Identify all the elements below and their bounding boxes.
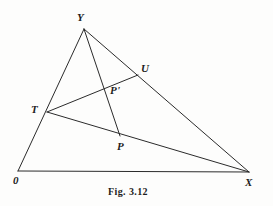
figure-container: 0YXTUPP' Fig. 3.12 [0,0,273,206]
figure-caption: Fig. 3.12 [108,187,148,197]
segment-y-x [84,29,249,172]
point-label-u: U [141,63,149,74]
geometry-diagram [0,0,273,206]
point-label-o: 0 [13,175,19,186]
point-label-y: Y [77,12,84,23]
segment-t-x [47,112,249,172]
point-label-p: P [117,141,124,152]
segment-t-u [47,75,138,112]
point-label-pp: P' [110,85,120,96]
point-label-x: X [245,177,253,188]
point-label-t: T [31,104,38,115]
segment-o-x [18,171,249,172]
segment-o-y [18,29,84,171]
segment-layer [18,29,249,172]
